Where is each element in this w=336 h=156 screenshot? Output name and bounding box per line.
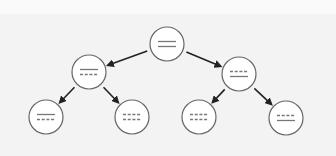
arrow-root-to-right-mid bbox=[186, 52, 220, 66]
tree-diagram bbox=[0, 0, 336, 156]
node-circle bbox=[222, 57, 256, 91]
node-leaf-3 bbox=[182, 100, 216, 134]
node-leaf-1 bbox=[29, 100, 63, 134]
arrow-right-mid-to-leaf-4 bbox=[254, 88, 271, 104]
arrow-root-to-left-mid bbox=[108, 51, 147, 65]
node-root bbox=[150, 27, 184, 61]
node-circle bbox=[72, 55, 106, 89]
node-circle bbox=[182, 100, 216, 134]
arrow-left-mid-to-leaf-1 bbox=[60, 87, 75, 102]
nodes bbox=[29, 27, 303, 135]
node-circle bbox=[150, 27, 184, 61]
node-leaf-2 bbox=[115, 100, 149, 134]
node-leaf-4 bbox=[269, 101, 303, 135]
node-circle bbox=[29, 100, 63, 134]
node-circle bbox=[269, 101, 303, 135]
arrow-left-mid-to-leaf-2 bbox=[104, 87, 119, 102]
arrow-right-mid-to-leaf-3 bbox=[213, 89, 225, 102]
node-circle bbox=[115, 100, 149, 134]
node-right-mid bbox=[222, 57, 256, 91]
node-left-mid bbox=[72, 55, 106, 89]
